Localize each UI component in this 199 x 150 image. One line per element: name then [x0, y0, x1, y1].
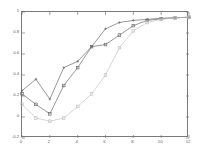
x-tick-label: 12: [186, 140, 191, 144]
x-tick-label: 10: [158, 140, 163, 144]
y-tick-label: -0.2: [12, 135, 19, 139]
x-tick-label: 4: [75, 140, 77, 144]
x-tick-label: 6: [103, 140, 105, 144]
y-tick-label: 1: [17, 9, 19, 13]
chart-series-1: [21, 16, 191, 101]
x-tick-label: 0: [20, 140, 22, 144]
series-line: [22, 17, 189, 114]
y-tick-label: 0.6: [13, 51, 19, 55]
series-line: [22, 17, 189, 121]
plot-svg: [22, 12, 189, 138]
x-tick-label: 8: [131, 140, 133, 144]
chart-series-3: [21, 16, 191, 123]
y-tick-label: 0.4: [13, 72, 19, 76]
chart-series-2: [21, 16, 191, 115]
y-tick-label: 0.8: [13, 30, 19, 34]
y-axis-tick-labels: -0.200.20.40.60.81: [0, 0, 19, 150]
plot-area: [21, 11, 188, 137]
y-tick-label: 0: [17, 114, 19, 118]
x-tick-label: 2: [48, 140, 50, 144]
chart-figure: -0.200.20.40.60.81 024681012: [0, 0, 199, 150]
y-tick-label: 0.2: [13, 93, 19, 97]
x-axis-tick-labels: 024681012: [0, 140, 199, 149]
